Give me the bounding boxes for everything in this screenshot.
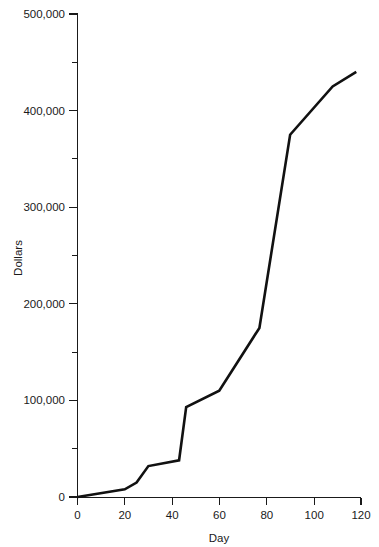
- x-tick-label: 120: [351, 509, 370, 521]
- y-axis-title: Dollars: [12, 240, 24, 276]
- line-chart-plot: 500,000 400,000 300,000 200,000 100,000 …: [0, 0, 379, 547]
- x-tick-label: 60: [213, 509, 226, 521]
- x-tick-label: 20: [118, 509, 131, 521]
- y-tick-label: 0: [59, 491, 65, 503]
- x-tick-label: 80: [260, 509, 273, 521]
- x-axis-title: Day: [209, 532, 230, 544]
- y-tick-label: 400,000: [23, 105, 65, 117]
- x-tick-label: 40: [166, 509, 179, 521]
- y-tick-label: 100,000: [23, 394, 65, 406]
- y-tick-label: 200,000: [23, 298, 65, 310]
- x-tick-label: 0: [74, 509, 80, 521]
- x-tick-label: 100: [305, 509, 324, 521]
- chart-container: 500,000 400,000 300,000 200,000 100,000 …: [0, 0, 379, 547]
- y-tick-label: 500,000: [23, 8, 65, 20]
- chart-background: [0, 0, 379, 547]
- y-tick-label: 300,000: [23, 201, 65, 213]
